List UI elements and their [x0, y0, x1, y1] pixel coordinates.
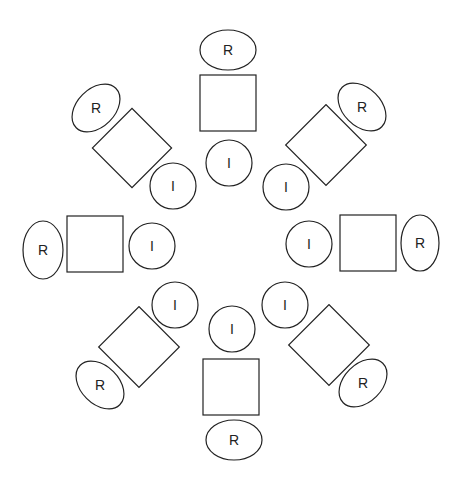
diagram-svg: RIRIRIRIRIRIRIRI [0, 0, 462, 483]
inner-node-bottom-right: I [262, 282, 308, 328]
group-top-right: RI [263, 74, 395, 210]
outer-label: R [38, 242, 48, 258]
inner-node-top-left: I [150, 163, 196, 209]
inner-node-left: I [129, 223, 175, 269]
outer-label: R [223, 42, 233, 58]
inner-node-bottom: I [209, 306, 255, 352]
inner-label: I [173, 297, 177, 313]
inner-label: I [284, 179, 288, 195]
outer-node-left: R [23, 221, 63, 279]
inner-node-top: I [206, 140, 252, 186]
outer-label: R [415, 235, 425, 251]
block-right [340, 215, 396, 271]
block-top-left [92, 108, 171, 187]
outer-node-bottom-left: R [67, 352, 133, 418]
block-bottom-left [99, 307, 180, 388]
group-bottom: RI [203, 306, 262, 460]
outer-label: R [91, 100, 101, 116]
outer-node-bottom-right: R [330, 350, 396, 416]
outer-node-top-left: R [63, 75, 129, 141]
inner-node-bottom-left: I [152, 282, 198, 328]
group-top: RI [200, 30, 256, 186]
outer-node-top-right: R [329, 74, 395, 140]
block-bottom-right [289, 305, 370, 386]
group-bottom-left: RI [67, 282, 198, 418]
outer-node-top: R [200, 30, 256, 70]
inner-label: I [307, 236, 311, 252]
block-top-right [286, 105, 367, 186]
block-bottom [203, 359, 259, 415]
group-right: RI [286, 215, 439, 271]
block-top [200, 75, 256, 131]
group-top-left: RI [63, 75, 196, 209]
outer-label: R [229, 432, 239, 448]
outer-label: R [357, 99, 367, 115]
inner-label: I [283, 297, 287, 313]
outer-label: R [95, 377, 105, 393]
inner-node-top-right: I [263, 164, 309, 210]
inner-label: I [230, 321, 234, 337]
outer-node-right: R [401, 215, 439, 271]
radial-diagram: RIRIRIRIRIRIRIRI [0, 0, 462, 483]
group-left: RI [23, 216, 175, 279]
outer-node-bottom: R [206, 420, 262, 460]
group-bottom-right: RI [262, 282, 396, 416]
inner-label: I [150, 238, 154, 254]
inner-label: I [171, 178, 175, 194]
inner-label: I [227, 155, 231, 171]
block-left [67, 216, 123, 272]
inner-node-right: I [286, 221, 332, 267]
outer-label: R [358, 375, 368, 391]
